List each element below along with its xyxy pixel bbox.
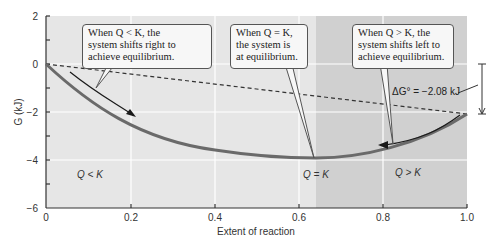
callout-line: When Q = K,	[236, 27, 302, 39]
callout-q-equals-k: When Q = K, the system is at equilibrium…	[230, 24, 308, 69]
region-label-q-equals-k: Q = K	[303, 169, 330, 180]
y-tick-label: 0	[32, 59, 38, 70]
x-tick-label: 1.0	[460, 212, 474, 223]
region-label-q-less-k: Q < K	[77, 169, 104, 180]
callout-line: system shifts left to	[358, 39, 448, 51]
callout-q-greater-k: When Q > K, the system shifts left to ac…	[352, 24, 454, 69]
y-tick-label: −4	[27, 155, 39, 166]
callout-line: When Q < K, the	[88, 27, 206, 39]
callout-line: system shifts right to	[88, 39, 206, 51]
delta-g-label: ΔG° = −2.08 kJ	[392, 86, 460, 97]
region-label-q-greater-k: Q > K	[395, 167, 422, 178]
callout-line: achieve equilibrium.	[88, 51, 206, 63]
x-tick-label: 0.4	[208, 212, 222, 223]
callout-line: the system is	[236, 39, 302, 51]
callout-q-less-k: When Q < K, the system shifts right to a…	[82, 24, 212, 69]
x-tick-label: 0	[43, 212, 49, 223]
callout-line: achieve equilibrium.	[358, 51, 448, 63]
x-tick-label: 0.6	[292, 212, 306, 223]
x-axis-title: Extent of reaction	[217, 226, 295, 237]
y-tick-label: 2	[32, 11, 38, 22]
x-tick-label: 0.2	[124, 212, 138, 223]
x-tick-label: 0.8	[376, 212, 390, 223]
callout-line: at equilibrium.	[236, 51, 302, 63]
y-tick-label: −2	[27, 107, 39, 118]
callout-line: When Q > K, the	[358, 27, 448, 39]
y-axis-title: G (kJ)	[13, 98, 24, 125]
y-tick-label: −6	[27, 203, 39, 214]
